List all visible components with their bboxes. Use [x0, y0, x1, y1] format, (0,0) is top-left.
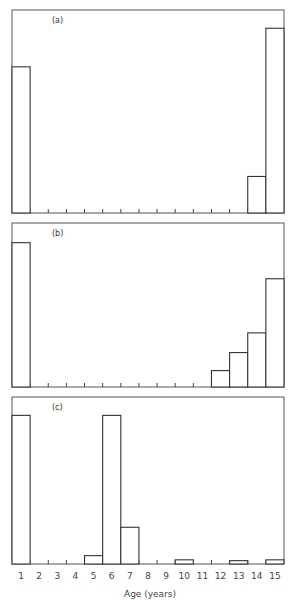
x-tick-label: 10 — [179, 571, 191, 581]
x-tick-label: 8 — [145, 571, 151, 581]
panel-label: (a) — [52, 16, 63, 25]
bar-age-1 — [12, 67, 30, 213]
bar-age-5 — [85, 556, 103, 564]
panel-frame — [12, 10, 284, 213]
bar-age-14 — [248, 333, 266, 387]
bar-age-15 — [266, 279, 284, 387]
x-axis-title: Age (years) — [124, 589, 176, 599]
bar-age-10 — [175, 560, 193, 564]
bar-age-7 — [121, 527, 139, 564]
bar-age-15 — [266, 28, 284, 213]
panel-label: (c) — [52, 403, 63, 412]
bar-age-12 — [211, 371, 229, 387]
bar-age-1 — [12, 415, 30, 564]
x-tick-label: 1 — [18, 571, 24, 581]
x-tick-label: 6 — [109, 571, 115, 581]
bar-age-13 — [230, 561, 248, 564]
x-tick-label: 4 — [73, 571, 79, 581]
histogram-chart: (a)(b)(c)123456789101112131415Age (years… — [0, 0, 299, 601]
x-tick-label: 15 — [269, 571, 280, 581]
x-tick-label: 5 — [91, 571, 97, 581]
panel-a: (a) — [12, 10, 284, 213]
x-tick-label: 7 — [127, 571, 133, 581]
panel-label: (b) — [52, 229, 63, 238]
x-tick-label: 12 — [215, 571, 226, 581]
x-tick-label: 14 — [251, 571, 263, 581]
x-tick-label: 3 — [54, 571, 60, 581]
bar-age-1 — [12, 243, 30, 387]
bar-age-6 — [103, 415, 121, 564]
panel-c: (c) — [12, 397, 284, 564]
panel-b: (b) — [12, 223, 284, 387]
x-tick-label: 9 — [163, 571, 169, 581]
bar-age-13 — [230, 353, 248, 387]
x-tick-label: 13 — [233, 571, 244, 581]
bar-age-14 — [248, 176, 266, 213]
panel-frame — [12, 397, 284, 564]
bar-age-15 — [266, 560, 284, 564]
x-tick-label: 11 — [197, 571, 208, 581]
x-tick-label: 2 — [36, 571, 42, 581]
